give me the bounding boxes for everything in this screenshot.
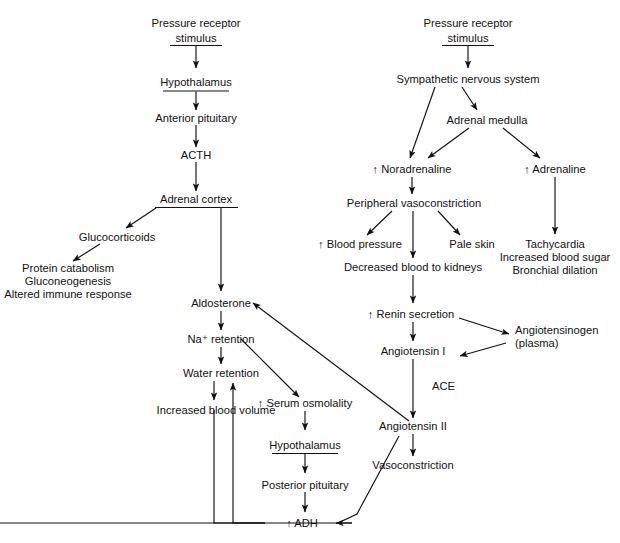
node-serum-osmolality: ↑ Serum osmolality bbox=[258, 397, 353, 409]
edge-adrenal-medulla-to-noradrenaline bbox=[428, 128, 469, 158]
node-water-retention: Water retention bbox=[183, 367, 259, 379]
node-gluconeogenesis: Gluconeogenesis bbox=[25, 275, 112, 287]
node-hypothalamus-lower: Hypothalamus bbox=[269, 439, 341, 451]
node-tachycardia: Tachycardia bbox=[525, 238, 585, 250]
node-noradrenaline: ↑ Noradrenaline bbox=[373, 163, 452, 175]
edge-sns-to-adrenal-medulla bbox=[462, 87, 477, 110]
node-pressure-receptor-right-line1: Pressure receptor bbox=[424, 17, 513, 29]
node-pressure-receptor-left-line1: Pressure receptor bbox=[152, 17, 241, 29]
node-vasoconstriction: Vasoconstriction bbox=[372, 459, 453, 471]
node-pale-skin: Pale skin bbox=[449, 238, 494, 250]
node-posterior-pituitary: Posterior pituitary bbox=[261, 479, 348, 491]
edge-peripheral-vasoconstriction-to-blood-pressure bbox=[367, 211, 392, 235]
node-glucocorticoids: Glucocorticoids bbox=[79, 231, 156, 243]
node-protein-catabolism: Protein catabolism bbox=[22, 262, 114, 274]
node-angiotensinogen-line2: (plasma) bbox=[515, 337, 559, 349]
node-adrenal-medulla: Adrenal medulla bbox=[447, 114, 529, 126]
edge-adrenal-cortex-to-glucocorticoids bbox=[126, 208, 156, 228]
edge-renin-to-angiotensinogen bbox=[459, 318, 509, 334]
node-renin-secretion: ↑ Renin secretion bbox=[368, 308, 454, 320]
node-angiotensinogen-line1: Angiotensinogen bbox=[515, 324, 598, 336]
node-adrenal-cortex: Adrenal cortex bbox=[160, 193, 233, 205]
node-peripheral-vasoconstriction: Peripheral vasoconstriction bbox=[347, 197, 481, 209]
node-sympathetic-nervous-system: Sympathetic nervous system bbox=[396, 73, 539, 85]
node-adh: ↑ ADH bbox=[286, 517, 318, 529]
node-hypothalamus-left: Hypothalamus bbox=[160, 76, 232, 88]
flowchart-diagram: Pressure receptor stimulus Hypothalamus … bbox=[0, 0, 620, 543]
node-angiotensin-i: Angiotensin I bbox=[381, 345, 446, 357]
node-aldosterone: Aldosterone bbox=[191, 297, 251, 309]
flowchart-canvas: Pressure receptor stimulus Hypothalamus … bbox=[0, 0, 620, 543]
node-bronchial-dilation: Bronchial dilation bbox=[512, 264, 597, 276]
edge-glucocorticoids-to-effects bbox=[73, 244, 100, 261]
node-pressure-receptor-left-line2: stimulus bbox=[175, 32, 216, 44]
node-decreased-blood-to-kidneys: Decreased blood to kidneys bbox=[344, 261, 482, 273]
edge-peripheral-vasoconstriction-to-pale-skin bbox=[438, 211, 460, 235]
node-pressure-receptor-right-line2: stimulus bbox=[447, 32, 488, 44]
node-increased-blood-sugar: Increased blood sugar bbox=[500, 251, 611, 263]
node-angiotensin-ii: Angiotensin II bbox=[379, 420, 447, 432]
node-ace-label: ACE bbox=[432, 380, 455, 392]
node-na-retention: Na⁺ retention bbox=[188, 333, 255, 345]
edge-adrenal-medulla-to-adrenaline bbox=[503, 128, 540, 158]
node-acth: ACTH bbox=[181, 149, 211, 161]
node-anterior-pituitary: Anterior pituitary bbox=[155, 112, 237, 124]
edge-sns-to-noradrenaline bbox=[410, 87, 435, 158]
edge-angiotensinogen-to-angiotensin-i bbox=[460, 343, 506, 356]
node-blood-pressure: ↑ Blood pressure bbox=[318, 238, 402, 250]
node-altered-immune-response: Altered immune response bbox=[4, 288, 131, 300]
edge-adh-feedback-path bbox=[233, 401, 265, 523]
edge-blood-volume-to-adh-path bbox=[214, 410, 265, 523]
node-adrenaline: ↑ Adrenaline bbox=[524, 163, 586, 175]
